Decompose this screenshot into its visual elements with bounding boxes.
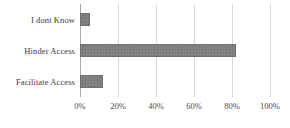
xtick-label-100: 100%: [250, 101, 290, 111]
bar-hinder-access: [80, 44, 236, 57]
bar-row: [80, 66, 270, 97]
xtick-label-20: 20%: [98, 101, 138, 111]
category-label-facilitate-access: Facilitate Access: [0, 66, 75, 97]
bar-row: [80, 35, 270, 66]
bar-i-dont-know: [80, 13, 90, 26]
gridline-100: [270, 4, 271, 97]
bar-facilitate-access: [80, 75, 103, 88]
bar-row: [80, 4, 270, 35]
xtick-label-60: 60%: [174, 101, 214, 111]
xtick-label-80: 80%: [212, 101, 252, 111]
category-label-hinder-access: Hinder Access: [0, 35, 75, 66]
bar-chart: I dont Know Hinder Access Facilitate Acc…: [0, 0, 290, 128]
x-axis-tick-labels: 0% 20% 40% 60% 80% 100%: [0, 101, 290, 115]
xtick-label-40: 40%: [136, 101, 176, 111]
category-label-i-dont-know: I dont Know: [0, 4, 75, 35]
bars-layer: [80, 4, 270, 97]
xtick-label-0: 0%: [60, 101, 100, 111]
category-axis: I dont Know Hinder Access Facilitate Acc…: [0, 4, 75, 97]
